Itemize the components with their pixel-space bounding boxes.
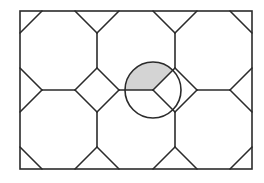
octagon-tiling-diagram — [0, 0, 264, 183]
